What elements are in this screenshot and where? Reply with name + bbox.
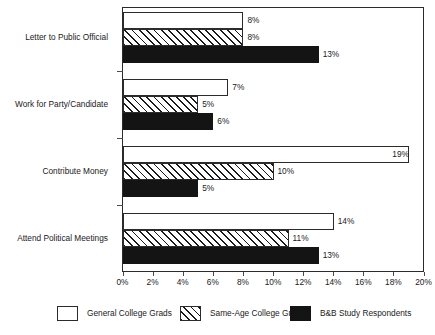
bar: [123, 29, 243, 46]
value-axis-tick-label: 6%: [207, 277, 219, 288]
category-separator-tick: [117, 71, 123, 72]
bar-value-label: 6%: [213, 113, 229, 130]
category-label: Contribute Money: [0, 166, 108, 176]
chart-legend: General College GradsSame-Age College Gr…: [0, 303, 435, 327]
bar: [123, 230, 289, 247]
bar-value-label: 5%: [198, 180, 214, 197]
value-axis-tick-label: 0%: [117, 277, 129, 288]
value-axis-tick: [424, 272, 425, 276]
value-axis-tick-label: 2%: [147, 277, 159, 288]
value-axis-tick: [123, 272, 124, 276]
bar: [123, 247, 319, 264]
value-axis-tick: [183, 272, 184, 276]
bar: [123, 96, 198, 113]
bars-layer: 8%8%13%7%5%6%19%10%5%14%11%13%: [123, 8, 424, 271]
value-axis-tick: [273, 272, 274, 276]
bar-value-label: 19%: [123, 146, 414, 163]
value-axis-tick-label: 4%: [177, 277, 189, 288]
category-label: Attend Political Meetings: [0, 233, 108, 243]
value-axis-tick: [393, 272, 394, 276]
legend-label: B&B Study Respondents: [320, 308, 411, 319]
bar-value-label: 14%: [334, 213, 355, 230]
category-axis-labels: Letter to Public OfficialWork for Party/…: [0, 7, 114, 272]
bar: [123, 213, 334, 230]
legend-item[interactable]: General College Grads: [57, 303, 172, 323]
bar-value-label: 11%: [289, 230, 309, 247]
bar: [123, 113, 213, 130]
legend-label: General College Grads: [87, 308, 172, 319]
value-axis-tick: [153, 272, 154, 276]
bar-chart: Letter to Public OfficialWork for Party/…: [0, 0, 435, 335]
value-axis-tick-label: 18%: [385, 277, 402, 288]
value-axis-tick-label: 14%: [325, 277, 342, 288]
legend-swatch: [290, 306, 311, 321]
value-axis-tick: [303, 272, 304, 276]
bar-value-label: 13%: [319, 46, 340, 63]
value-axis-tick: [333, 272, 334, 276]
bar: [123, 163, 274, 180]
bar: [123, 180, 198, 197]
value-axis-tick: [213, 272, 214, 276]
bar: [123, 12, 243, 29]
category-label: Letter to Public Official: [0, 32, 108, 42]
value-axis-tick: [243, 272, 244, 276]
value-axis-tick: [363, 272, 364, 276]
bar-value-label: 7%: [228, 79, 244, 96]
legend-item[interactable]: Same-Age College Grads: [180, 303, 305, 323]
bar: [123, 46, 319, 63]
bar: [123, 79, 228, 96]
bar-value-label: 8%: [243, 29, 259, 46]
value-axis-tick-label: 12%: [295, 277, 312, 288]
value-axis-tick-label: 16%: [355, 277, 372, 288]
value-axis: 0%2%4%6%8%10%12%14%16%18%20%: [122, 272, 424, 294]
bar-value-label: 13%: [319, 247, 340, 264]
value-axis-tick-label: 10%: [265, 277, 282, 288]
legend-swatch: [180, 306, 201, 321]
bar-value-label: 8%: [243, 12, 259, 29]
bar-value-label: 5%: [198, 96, 214, 113]
category-label: Work for Party/Candidate: [0, 99, 108, 109]
bar-value-label: 10%: [274, 163, 295, 180]
category-separator-tick: [117, 138, 123, 139]
legend-item[interactable]: B&B Study Respondents: [290, 303, 411, 323]
legend-swatch: [57, 306, 78, 321]
category-separator-tick: [117, 205, 123, 206]
value-axis-tick-label: 20%: [415, 277, 432, 288]
value-axis-tick-label: 8%: [237, 277, 249, 288]
